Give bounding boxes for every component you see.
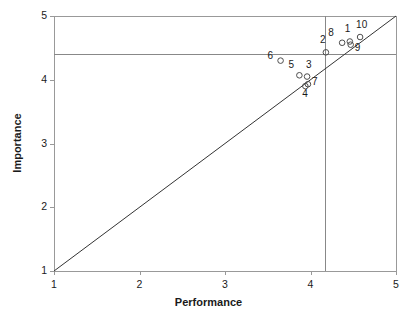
data-point-label: 4 [302,88,308,99]
data-point-label: 2 [320,34,326,45]
y-tick-label: 4 [23,73,47,85]
x-tick-label: 2 [128,278,152,290]
tick-marks-layer [50,17,397,276]
data-point-label: 6 [268,50,274,61]
x-tick-label: 4 [299,278,323,290]
y-tick-label: 1 [23,264,47,276]
x-tick-label: 1 [42,278,66,290]
y-axis-title: Importance [11,93,23,193]
data-point-label: 7 [312,76,318,87]
data-point-marker[interactable] [304,74,310,80]
data-point-label: 10 [356,19,367,30]
data-point-label: 5 [288,59,294,70]
x-axis-title: Performance [0,296,417,308]
data-point-marker[interactable] [348,42,354,48]
x-tick-label: 5 [384,278,408,290]
data-point-marker[interactable] [278,58,284,64]
data-point-marker[interactable] [297,72,303,78]
data-point-marker[interactable] [339,40,345,46]
data-point-label: 3 [306,59,312,70]
y-tick-label: 5 [23,9,47,21]
data-point-label: 9 [355,42,361,53]
y-tick-label: 2 [23,200,47,212]
importance-performance-chart: 1234512345 12345678910 Performance Impor… [0,0,417,317]
data-point-marker[interactable] [357,34,363,40]
x-tick-label: 3 [213,278,237,290]
data-point-label: 1 [345,23,351,34]
y-tick-label: 3 [23,137,47,149]
data-point-label: 8 [328,27,334,38]
